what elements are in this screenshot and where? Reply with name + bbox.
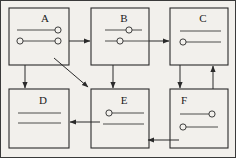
node-f-row2-left-circle	[180, 124, 186, 130]
node-c[interactable]: C	[170, 8, 228, 65]
node-d[interactable]: D	[9, 89, 69, 148]
node-a-row2-left-circle	[17, 38, 23, 44]
connector-a-to-e	[54, 58, 88, 87]
node-f-label: F	[181, 94, 187, 106]
node-d-label: D	[39, 94, 47, 106]
node-f-box	[170, 89, 228, 148]
node-c-label: C	[199, 12, 206, 24]
node-c-row2-left-circle	[180, 39, 186, 45]
node-a-label: A	[41, 12, 49, 24]
node-a[interactable]: A	[9, 8, 69, 65]
node-f[interactable]: F	[170, 89, 228, 148]
node-b-row1-mid-circle	[126, 27, 132, 33]
node-f-row1-right-circle	[209, 111, 215, 117]
node-b-label: B	[120, 12, 127, 24]
node-b-row2-mid-circle	[117, 38, 123, 44]
node-e[interactable]: E	[91, 89, 149, 148]
node-a-row2-right-circle	[55, 38, 61, 44]
diagram-canvas: A B C	[0, 0, 236, 158]
node-a-box	[9, 8, 69, 65]
node-e-label: E	[121, 94, 128, 106]
node-b[interactable]: B	[91, 8, 149, 65]
node-e-row1-left-circle	[106, 110, 112, 116]
node-a-row1-right-circle	[55, 27, 61, 33]
